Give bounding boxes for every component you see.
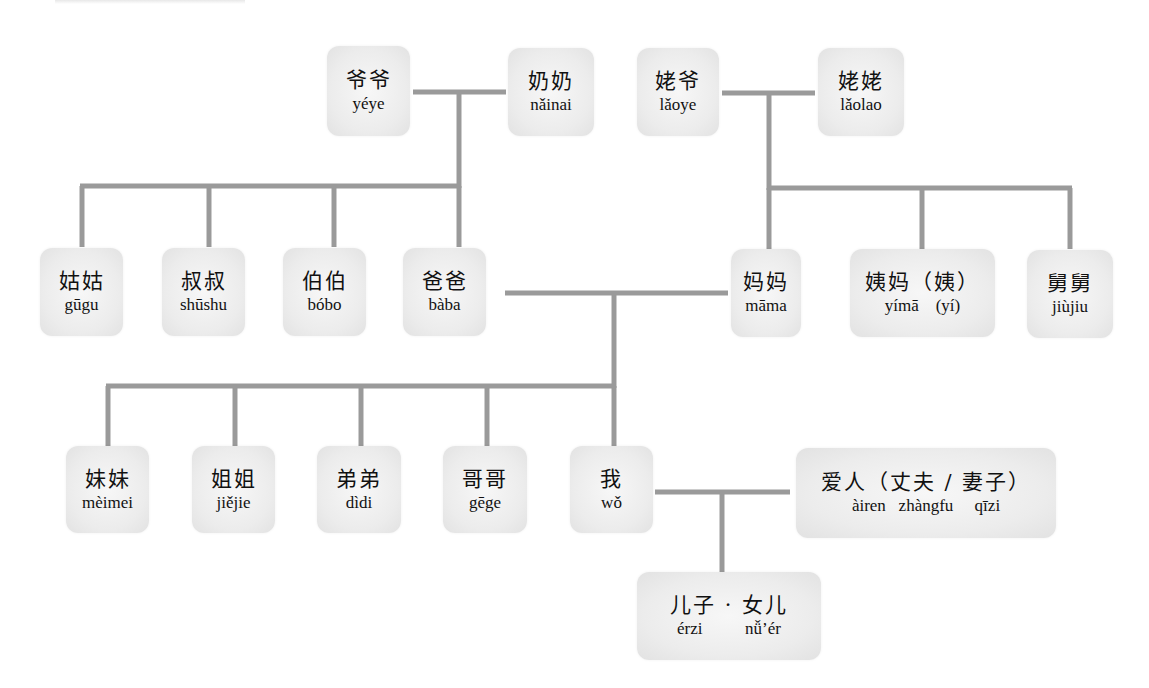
- hanzi-label: 伯伯: [302, 268, 348, 294]
- pinyin-label: yéye: [352, 93, 384, 115]
- node-baba: 爸爸 bàba: [403, 248, 486, 336]
- pinyin-label: lǎolao: [840, 94, 882, 116]
- node-bobo: 伯伯 bóbo: [283, 248, 366, 336]
- pinyin-label: māma: [745, 295, 787, 317]
- hanzi-label: 姨妈（姨）: [865, 269, 980, 295]
- hanzi-label: 姥姥: [838, 68, 884, 94]
- hanzi-label: 我: [600, 466, 623, 492]
- pinyin-label: érzi nǚ’ér: [677, 618, 781, 640]
- pinyin-label: gūgu: [65, 294, 99, 316]
- hanzi-label: 姥爷: [655, 68, 701, 94]
- node-gege: 哥哥 gēge: [443, 446, 527, 533]
- pinyin-label: jiùjiu: [1052, 296, 1088, 318]
- hanzi-label: 妹妹: [85, 466, 131, 492]
- hanzi-label: 爷爷: [346, 67, 392, 93]
- node-laolao: 姥姥 lǎolao: [818, 48, 904, 136]
- node-meimei: 妹妹 mèimei: [66, 446, 149, 533]
- node-laoye: 姥爷 lǎoye: [637, 48, 719, 136]
- pinyin-label: mèimei: [82, 492, 133, 514]
- node-jiejie: 姐姐 jiějie: [192, 446, 275, 533]
- node-wo: 我 wǒ: [570, 446, 653, 533]
- node-mama: 妈妈 māma: [731, 249, 801, 337]
- node-yeye: 爷爷 yéye: [327, 46, 410, 136]
- hanzi-label: 姑姑: [59, 268, 105, 294]
- hanzi-label: 爱人（丈夫 / 妻子）: [821, 469, 1031, 495]
- pinyin-label: nǎinai: [530, 94, 572, 116]
- pinyin-label: yímā (yí): [885, 295, 961, 317]
- pinyin-label: bóbo: [308, 294, 342, 316]
- hanzi-label: 妈妈: [743, 269, 789, 295]
- hanzi-label: 哥哥: [462, 466, 508, 492]
- hanzi-label: 弟弟: [336, 466, 382, 492]
- pinyin-label: dìdi: [346, 492, 372, 514]
- node-didi: 弟弟 dìdi: [317, 446, 401, 533]
- node-gugu: 姑姑 gūgu: [40, 248, 123, 336]
- hanzi-label: 奶奶: [528, 68, 574, 94]
- node-airen: 爱人（丈夫 / 妻子） àiren zhàngfu qīzi: [796, 448, 1056, 538]
- pinyin-label: shūshu: [180, 294, 227, 316]
- node-shushu: 叔叔 shūshu: [162, 248, 245, 336]
- node-jiujiu: 舅舅 jiùjiu: [1027, 250, 1113, 338]
- node-yima: 姨妈（姨） yímā (yí): [850, 249, 995, 337]
- hanzi-label: 爸爸: [422, 268, 468, 294]
- pinyin-label: bàba: [428, 294, 460, 316]
- pinyin-label: lǎoye: [660, 94, 697, 116]
- hanzi-label: 舅舅: [1047, 270, 1093, 296]
- node-children: 儿子 · 女儿 érzi nǚ’ér: [637, 572, 821, 660]
- pinyin-label: wǒ: [601, 492, 622, 514]
- node-nainai: 奶奶 nǎinai: [508, 48, 594, 136]
- pinyin-label: gēge: [469, 492, 501, 514]
- pinyin-label: jiějie: [217, 492, 251, 514]
- pinyin-label: àiren zhàngfu qīzi: [852, 495, 1000, 517]
- hanzi-label: 儿子 · 女儿: [670, 592, 788, 618]
- hanzi-label: 姐姐: [211, 466, 257, 492]
- hanzi-label: 叔叔: [181, 268, 227, 294]
